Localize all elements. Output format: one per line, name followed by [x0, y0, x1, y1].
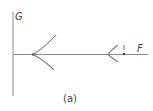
axis-label-g: G — [15, 12, 23, 22]
marker-dot — [123, 53, 125, 55]
left-cusp-point — [32, 53, 34, 55]
left-branch-lower — [33, 55, 54, 71]
right-branch-upper — [108, 45, 118, 55]
left-branch-upper — [33, 35, 56, 55]
figure-caption: (a) — [63, 94, 77, 104]
right-branch-lower — [108, 55, 118, 63]
axis-label-f: F — [137, 44, 143, 54]
